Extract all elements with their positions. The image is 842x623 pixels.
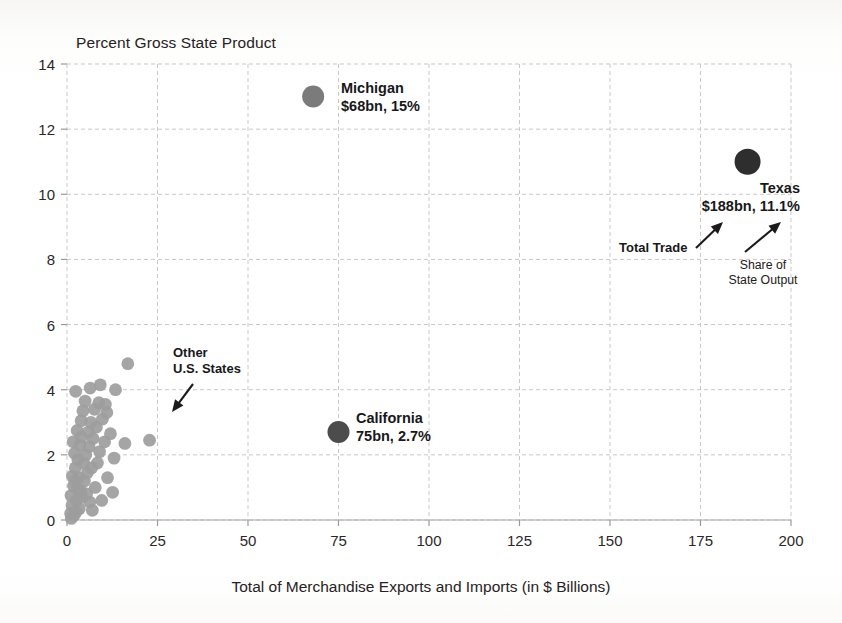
point-label-name: Texas [500, 180, 800, 198]
annotation-line: Total Trade [619, 240, 687, 256]
x-axis-title: Total of Merchandise Exports and Imports… [0, 578, 842, 596]
point-label-name: California [356, 410, 431, 428]
annotation-arrows [0, 0, 842, 623]
y-tick-label: 10 [23, 186, 55, 203]
annotation-label: Share ofState Output [728, 258, 797, 288]
y-tick-label: 2 [23, 446, 55, 463]
annotation-line: State Output [728, 273, 797, 288]
point-label-value: $68bn, 15% [341, 98, 420, 116]
point-label-michigan: Michigan$68bn, 15% [341, 80, 420, 116]
annotation-line: Other [173, 345, 241, 361]
y-tick-label: 8 [23, 251, 55, 268]
x-tick-label: 50 [240, 532, 257, 549]
point-label-texas: Texas$188bn, 11.1% [500, 180, 800, 216]
x-tick-label: 75 [330, 532, 347, 549]
point-label-california: California75bn, 2.7% [356, 410, 431, 446]
y-tick-label: 4 [23, 381, 55, 398]
x-tick-label: 175 [688, 532, 713, 549]
annotation-label: OtherU.S. States [173, 345, 241, 376]
x-tick-label: 200 [778, 532, 803, 549]
point-label-value: 75bn, 2.7% [356, 428, 431, 446]
y-tick-label: 14 [23, 56, 55, 73]
x-tick-label: 25 [149, 532, 166, 549]
scatter-chart: Percent Gross State Product 025507510012… [0, 0, 842, 623]
x-tick-label: 0 [63, 532, 71, 549]
x-tick-label: 125 [507, 532, 532, 549]
x-tick-label: 100 [416, 532, 441, 549]
point-label-value: $188bn, 11.1% [500, 198, 800, 216]
annotation-line: U.S. States [173, 361, 241, 377]
share-of-output-arrow-shaft [745, 228, 774, 252]
x-tick-label: 150 [597, 532, 622, 549]
annotation-line: Share of [728, 258, 797, 273]
point-label-name: Michigan [341, 80, 420, 98]
y-tick-label: 6 [23, 316, 55, 333]
total-trade-arrow-shaft [696, 228, 717, 248]
other-states-arrow-head [172, 399, 183, 412]
y-tick-label: 0 [23, 512, 55, 529]
other-states-arrow-shaft [177, 384, 193, 405]
y-tick-label: 12 [23, 121, 55, 138]
annotation-label: Total Trade [619, 240, 687, 256]
